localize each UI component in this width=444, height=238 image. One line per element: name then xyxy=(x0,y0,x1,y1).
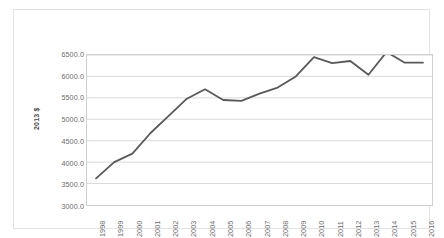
x-axis-tick-label: 2008 xyxy=(281,221,290,237)
y-axis-tick-label: 6000.0 xyxy=(61,71,84,80)
x-axis-tick-label: 2013 xyxy=(372,221,381,237)
x-axis-tick-labels: 1998199920002001200220032004200520062007… xyxy=(86,209,433,238)
x-axis-tick-label: 2005 xyxy=(226,221,235,237)
y-axis-tick-label: 3000.0 xyxy=(61,202,84,211)
gridlines xyxy=(87,55,432,184)
y-axis-tick-label: 5500.0 xyxy=(61,93,84,102)
x-axis-tick-label: 2002 xyxy=(171,221,180,237)
plot-area xyxy=(86,54,433,206)
x-axis-tick-label: 2004 xyxy=(208,221,217,237)
chart-frame: 2013 $ 6500.06000.05500.05000.04500.0400… xyxy=(13,9,430,229)
y-axis-tick-labels: 6500.06000.05500.05000.04500.04000.03500… xyxy=(48,54,84,206)
x-axis-tick-label: 1998 xyxy=(98,221,107,237)
x-axis-tick-label: 2006 xyxy=(244,221,253,237)
y-axis-tick-label: 5000.0 xyxy=(61,115,84,124)
x-axis-tick-label: 2014 xyxy=(390,221,399,237)
x-axis-tick-label: 2010 xyxy=(317,221,326,237)
y-axis-tick-label: 4500.0 xyxy=(61,136,84,145)
chart-screenshot: 2013 $ 6500.06000.05500.05000.04500.0400… xyxy=(0,0,444,238)
x-axis-tick-label: 2001 xyxy=(153,221,162,237)
y-axis-title: 2013 $ xyxy=(33,107,40,130)
x-axis-tick-label: 2011 xyxy=(336,221,345,237)
y-axis-tick-label: 4000.0 xyxy=(61,158,84,167)
x-axis-tick-label: 2009 xyxy=(299,221,308,237)
y-axis-tick-label: 3500.0 xyxy=(61,180,84,189)
y-axis-tick-label: 6500.0 xyxy=(61,50,84,59)
x-axis-tick-label: 1999 xyxy=(116,221,125,237)
x-axis-tick-label: 2012 xyxy=(354,221,363,237)
series-line xyxy=(96,55,423,178)
line-chart-svg xyxy=(87,55,432,205)
x-axis-tick-label: 2015 xyxy=(409,221,418,237)
data-series-group xyxy=(96,55,423,178)
x-axis-tick-label: 2016 xyxy=(427,221,436,237)
x-axis-tick-label: 2007 xyxy=(263,221,272,237)
x-axis-tick-label: 2000 xyxy=(135,221,144,237)
x-axis-tick-label: 2003 xyxy=(189,221,198,237)
